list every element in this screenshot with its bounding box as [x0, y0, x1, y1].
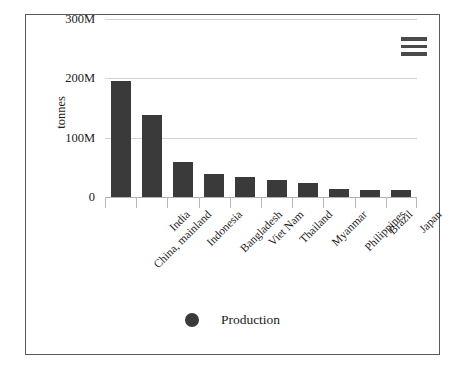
chart-legend: Production: [26, 312, 439, 328]
x-axis-category-labels: China, mainlandIndiaIndonesiaBangladeshV…: [105, 208, 417, 288]
x-axis-tick: [136, 197, 137, 208]
x-axis-tick: [199, 197, 200, 208]
bar[interactable]: [298, 183, 318, 197]
bar[interactable]: [329, 189, 349, 197]
bar[interactable]: [204, 174, 224, 197]
plot-area: [105, 19, 417, 197]
y-axis-tick-label: 0: [89, 191, 95, 204]
bar[interactable]: [111, 81, 131, 197]
y-axis-tick-label: 200M: [65, 72, 95, 85]
x-axis-tick: [386, 197, 387, 208]
bar-series-production: [105, 19, 417, 197]
y-axis-title: tonnes: [54, 96, 69, 129]
legend-item-label: Production: [221, 312, 280, 328]
y-axis-tick-label: 100M: [65, 131, 95, 144]
x-axis-category-label: Brazil: [386, 208, 414, 236]
chart-figure-frame: tonnes 300M200M100M0 China, mainlandIndi…: [25, 14, 440, 355]
x-axis-tick: [323, 197, 324, 208]
bar[interactable]: [142, 115, 162, 197]
x-axis-ticks: [105, 197, 417, 208]
x-axis-tick: [355, 197, 356, 208]
x-axis-tick: [416, 197, 417, 208]
bar[interactable]: [173, 162, 193, 197]
y-axis-tick-label: 300M: [65, 13, 95, 26]
legend-circle-marker: [185, 313, 199, 327]
bar[interactable]: [267, 180, 287, 197]
x-axis-tick: [292, 197, 293, 208]
x-axis-tick: [167, 197, 168, 208]
x-axis-tick: [230, 197, 231, 208]
x-axis-tick: [261, 197, 262, 208]
x-axis-category-label: Japan: [417, 208, 444, 235]
x-axis-tick: [105, 197, 106, 208]
bar[interactable]: [235, 177, 255, 197]
